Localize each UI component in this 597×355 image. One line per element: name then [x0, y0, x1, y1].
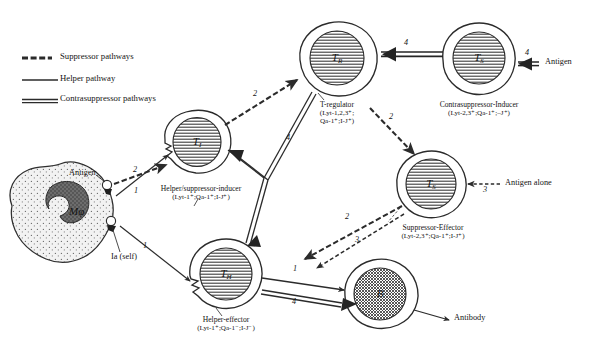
legend-label-contrasuppressor: Contrasuppressor pathways — [60, 94, 156, 104]
pathway-tr-contrasuppressor-to-ti — [228, 150, 268, 180]
num-antigen-right: 4 — [525, 48, 529, 57]
pathway-tr-contrasuppressor-to-th — [246, 178, 268, 247]
num-mac-to-th-helper: 1 — [143, 241, 147, 250]
pathway-th-to-b-contrasuppressor — [261, 290, 357, 311]
se-tag-sub: S — [432, 183, 436, 191]
t-inducer-pheno: (Lyt-1⁺;Qa-1⁺;I-J⁺) — [172, 194, 230, 202]
pathway-csi-to-tr-contrasuppressor — [381, 47, 443, 61]
num-se-to-th-b: 3 — [355, 235, 359, 244]
legend-label-suppressor: Suppressor pathways — [60, 52, 134, 62]
legend-label-helper: Helper pathway — [60, 74, 115, 84]
he-tag-sub: H — [227, 273, 232, 281]
antigen-macrophage-label: Antigen — [69, 168, 96, 177]
num-tr-to-se-suppressor: 2 — [389, 112, 393, 121]
pathway-ti-to-tr-suppressor — [225, 80, 297, 125]
contrasuppressor-inducer-pheno: (Lyt-2,3⁺;Qa-1⁺;–J⁺) — [448, 110, 510, 118]
num-antigen-alone: 3 — [483, 185, 487, 194]
pathway-antigen-to-csi — [518, 57, 539, 70]
csi-tag-sub: S — [480, 57, 484, 65]
num-th-to-b-helper: 1 — [293, 264, 297, 273]
suppressor-effector-tag: TS — [426, 177, 436, 192]
num-csi-to-tr: 4 — [404, 38, 408, 47]
num-se-to-th-a: 2 — [345, 212, 349, 221]
pathway-b-to-antibody — [414, 310, 449, 320]
ia-self-label: Ia (self) — [111, 252, 137, 261]
antigen-alone-label: Antigen alone — [505, 178, 552, 187]
legend-swatch-contrasuppressor — [22, 100, 58, 103]
t-inducer-tag: TI — [193, 135, 201, 150]
helper-effector-pheno: (Lyt-1⁺;Qa-1⁻;I-J⁻) — [197, 325, 255, 333]
pathway-mac-to-ti-suppressor — [114, 165, 166, 184]
macrophage-tag: Mφ — [69, 205, 84, 217]
leader-ia-self — [112, 227, 120, 252]
t-regulator-tag: TR — [332, 51, 342, 66]
contrasuppressor-inducer-tag: TS — [474, 51, 484, 66]
t-inducer-tag-sub: I — [199, 141, 201, 149]
num-th-to-b-contra: 4 — [292, 297, 296, 306]
pathway-th-to-b-helper — [262, 278, 344, 290]
antibody-label: Antibody — [454, 313, 485, 322]
antigen-right-label: Antigen — [545, 57, 572, 66]
helper-effector-tag: TH — [220, 267, 231, 282]
suppressor-effector-pheno: (Lyt-2,3⁺;Qa-1⁺;I-J⁺) — [401, 233, 464, 241]
num-mac-to-ti-suppressor: 2 — [133, 165, 137, 174]
num-mac-to-ti-helper: 1 — [134, 186, 138, 195]
diagram-root: Suppressor pathways Helper pathway Contr… — [0, 0, 597, 355]
t-regulator-tag-sub: R — [338, 57, 342, 65]
pathway-se-to-th-suppressor-a — [305, 206, 402, 259]
cell-macrophage — [10, 162, 116, 262]
num-ti-to-tr-suppressor: 2 — [253, 89, 257, 98]
num-tr-contrasuppressor: 4 — [286, 133, 290, 142]
b-cell-tag: B — [377, 287, 384, 299]
leader-t-regulator — [318, 93, 324, 100]
t-regulator-pheno-2: Qa-1⁺;I-J⁺) — [320, 118, 354, 126]
